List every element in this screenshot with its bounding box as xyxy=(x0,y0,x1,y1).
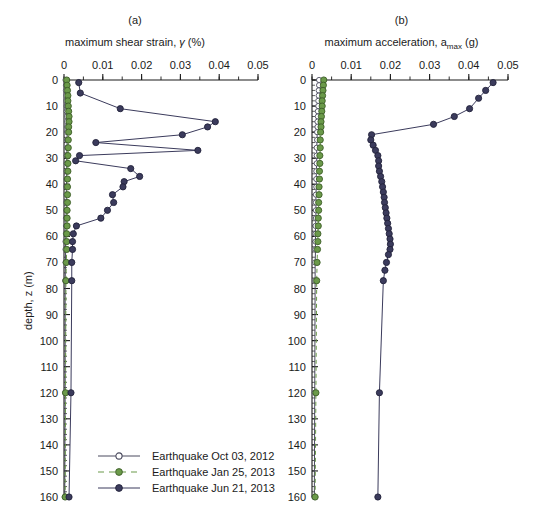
data-point xyxy=(380,278,386,284)
x-tick-label: 0.01 xyxy=(92,59,113,71)
data-point xyxy=(69,246,75,252)
y-tick-label: 140 xyxy=(288,439,306,451)
data-point xyxy=(451,113,457,119)
data-point xyxy=(109,192,115,198)
data-point xyxy=(314,259,320,265)
x-tick-label: 0.03 xyxy=(419,59,440,71)
data-point xyxy=(316,168,322,174)
y-tick-label: 160 xyxy=(40,491,58,503)
data-point xyxy=(317,152,323,158)
data-point xyxy=(64,207,70,213)
data-point xyxy=(64,176,70,182)
y-tick-label: 60 xyxy=(46,230,58,242)
data-point xyxy=(466,106,472,112)
x-tick-label: 0.02 xyxy=(131,59,152,71)
y-tick-label: 30 xyxy=(294,152,306,164)
y-tick-label: 30 xyxy=(46,152,58,164)
y-tick-label: 20 xyxy=(46,126,58,138)
figure-root: (a) maximum shear strain, γ (%) depth, z… xyxy=(0,0,533,520)
y-tick-label: 10 xyxy=(46,100,58,112)
y-tick-label: 130 xyxy=(40,413,58,425)
y-tick-label: 80 xyxy=(46,283,58,295)
data-point xyxy=(69,278,75,284)
data-point xyxy=(64,184,70,190)
data-point xyxy=(490,80,496,86)
x-tick-label: 0.02 xyxy=(380,59,401,71)
data-point xyxy=(316,176,322,182)
data-point xyxy=(315,215,321,221)
data-point xyxy=(65,145,71,151)
y-tick-label: 140 xyxy=(40,439,58,451)
data-point xyxy=(383,259,389,265)
series-line xyxy=(69,83,215,497)
data-point xyxy=(375,494,381,500)
data-point xyxy=(66,129,72,135)
y-tick-label: 100 xyxy=(40,335,58,347)
data-point xyxy=(314,278,320,284)
data-point xyxy=(212,119,218,125)
data-point xyxy=(483,87,489,93)
data-point xyxy=(137,173,143,179)
series-2 xyxy=(66,80,218,501)
data-point xyxy=(77,90,83,96)
data-point xyxy=(117,106,123,112)
y-tick-label: 130 xyxy=(288,413,306,425)
x-tick-label: 0.05 xyxy=(497,59,518,71)
data-point xyxy=(316,192,322,198)
data-point xyxy=(73,223,79,229)
y-tick-label: 60 xyxy=(294,230,306,242)
data-point xyxy=(179,132,185,138)
data-point xyxy=(382,267,388,273)
y-tick-label: 0 xyxy=(300,74,306,86)
legend-label-1: Earthquake Jan 25, 2013 xyxy=(142,466,275,478)
data-point xyxy=(65,137,71,143)
data-point xyxy=(70,231,76,237)
data-point xyxy=(66,494,72,500)
x-tick-label: 0.03 xyxy=(170,59,191,71)
y-tick-label: 10 xyxy=(294,100,306,112)
data-point xyxy=(204,124,210,130)
data-point xyxy=(315,238,321,244)
y-tick-label: 20 xyxy=(294,126,306,138)
x-tick-label: 0 xyxy=(61,59,67,71)
data-point xyxy=(69,238,75,244)
y-tick-label: 120 xyxy=(288,387,306,399)
legend-label-2: Earthquake Jun 21, 2013 xyxy=(142,482,275,494)
y-tick-label: 50 xyxy=(294,204,306,216)
legend-label-0: Earthquake Oct 03, 2012 xyxy=(142,450,274,462)
data-point xyxy=(65,152,71,158)
y-tick-label: 110 xyxy=(288,361,306,373)
x-tick-label: 0 xyxy=(309,59,315,71)
series-2 xyxy=(368,80,497,501)
y-tick-label: 0 xyxy=(52,74,58,86)
data-point xyxy=(195,147,201,153)
panel-a: (a) maximum shear strain, γ (%) depth, z… xyxy=(0,0,270,520)
data-point xyxy=(128,166,134,172)
legend-item-2: Earthquake Jun 21, 2013 xyxy=(96,480,275,496)
data-point xyxy=(64,199,70,205)
legend-item-0: Earthquake Oct 03, 2012 xyxy=(96,448,275,464)
data-point xyxy=(63,278,69,284)
y-tick-label: 90 xyxy=(46,309,58,321)
data-point xyxy=(120,184,126,190)
data-point xyxy=(98,215,104,221)
data-point xyxy=(93,139,99,145)
panel-b: (b) maximum acceleration, amax (g) 00.01… xyxy=(270,0,533,520)
data-point xyxy=(69,259,75,265)
legend-item-1: Earthquake Jan 25, 2013 xyxy=(96,464,275,480)
data-point xyxy=(76,80,82,86)
data-point xyxy=(64,223,70,229)
data-point xyxy=(317,137,323,143)
data-point xyxy=(317,145,323,151)
data-point xyxy=(64,238,70,244)
data-point xyxy=(376,390,382,396)
data-point xyxy=(317,160,323,166)
data-point xyxy=(64,231,70,237)
data-point xyxy=(430,121,436,127)
data-point xyxy=(313,390,319,396)
data-point xyxy=(316,207,322,213)
panel-a-plot: 00.010.020.030.040.050102030405060708090… xyxy=(0,0,270,520)
panel-b-svg: 00.010.020.030.040.050102030405060708090… xyxy=(270,0,533,520)
data-point xyxy=(312,494,318,500)
y-tick-label: 160 xyxy=(288,491,306,503)
